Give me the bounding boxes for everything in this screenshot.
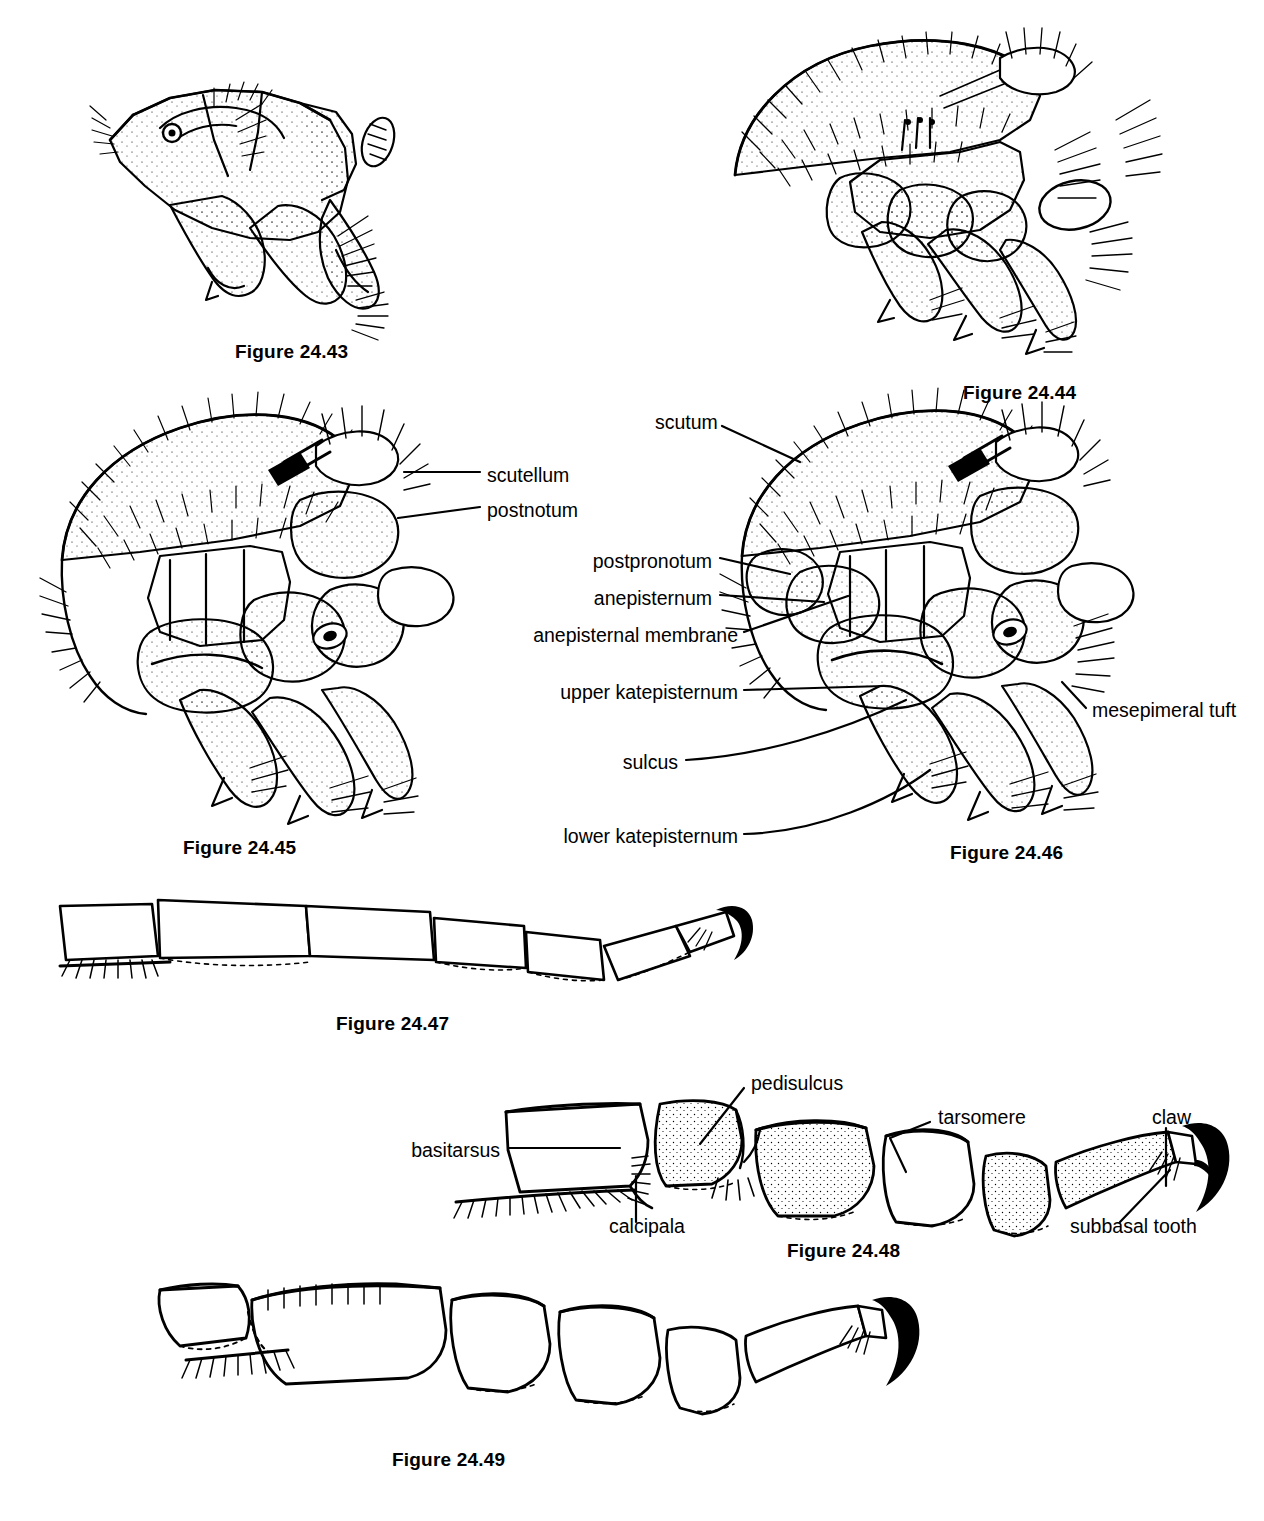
figure-24-43-drawing	[90, 82, 400, 340]
leader-sulcus	[686, 700, 906, 760]
leader-pedisulcus	[700, 1088, 744, 1144]
figure-caption-24-43: Figure 24.43	[235, 341, 348, 363]
label-calcipala: calcipala	[609, 1215, 685, 1238]
label-upper-katepisternum: upper katepisternum	[560, 681, 738, 704]
leader-postpronotum	[720, 558, 790, 574]
leader-tarsomere	[890, 1122, 930, 1172]
label-basitarsus: basitarsus	[411, 1139, 500, 1162]
label-anepisternum: anepisternum	[594, 587, 712, 610]
label-tarsomere: tarsomere	[938, 1106, 1026, 1129]
figure-caption-24-48: Figure 24.48	[787, 1240, 900, 1262]
leader-postnotum	[398, 507, 480, 518]
leader-lower-katepisternum	[744, 770, 930, 834]
leader-anepisternal-membrane	[744, 596, 848, 632]
figure-caption-24-44: Figure 24.44	[963, 382, 1076, 404]
figure-24-45-drawing	[40, 392, 453, 824]
label-sulcus: sulcus	[623, 751, 678, 774]
label-lower-katepisternum: lower katepisternum	[564, 825, 739, 848]
figure-caption-24-46: Figure 24.46	[950, 842, 1063, 864]
illustration-plate: Figure 24.43 Figure 24.44 Figure 24.45 F…	[0, 0, 1264, 1521]
figure-24-49-drawing	[159, 1284, 919, 1414]
label-subbasal-tooth: subbasal tooth	[1070, 1215, 1197, 1238]
label-postnotum: postnotum	[487, 499, 578, 522]
figure-caption-24-47: Figure 24.47	[336, 1013, 449, 1035]
figure-24-44-drawing	[735, 28, 1162, 354]
figure-caption-24-49: Figure 24.49	[392, 1449, 505, 1471]
label-scutellum: scutellum	[487, 464, 569, 487]
label-pedisulcus: pedisulcus	[751, 1072, 843, 1095]
figure-24-46-drawing	[720, 388, 1133, 820]
label-claw: claw	[1152, 1106, 1191, 1129]
leader-anepisternum	[720, 595, 824, 602]
label-anepisternal-membrane: anepisternal membrane	[533, 624, 738, 647]
annotation-leader-lines	[398, 426, 1170, 1222]
figure-24-47-drawing	[60, 900, 753, 981]
leader-mesepimeral-tuft	[1062, 682, 1086, 708]
figure-caption-24-45: Figure 24.45	[183, 837, 296, 859]
label-scutum: scutum	[655, 411, 718, 434]
leader-scutum	[722, 426, 800, 462]
label-postpronotum: postpronotum	[593, 550, 712, 573]
leader-upper-katepisternum	[744, 686, 884, 690]
label-mesepimeral-tuft: mesepimeral tuft	[1092, 699, 1236, 722]
